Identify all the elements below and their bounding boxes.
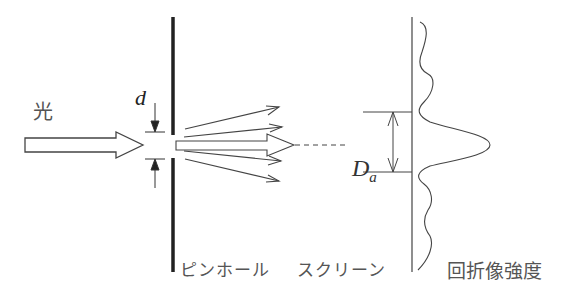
pinhole-label: ピンホール xyxy=(180,256,270,281)
spot-diameter-subscript: a xyxy=(369,169,377,185)
light-label: 光 xyxy=(33,96,53,125)
screen-label: スクリーン xyxy=(297,256,386,281)
diagram-canvas xyxy=(0,0,565,291)
spot-diameter-label: Da xyxy=(352,155,377,186)
aperture-dimension xyxy=(145,103,165,188)
diffraction-intensity-label: 回折像強度 xyxy=(447,256,542,283)
intensity-profile-curve xyxy=(418,22,490,270)
aperture-diameter-label: d xyxy=(135,85,146,111)
diffracted-rays xyxy=(176,106,294,182)
incoming-light-arrow xyxy=(25,132,143,158)
spot-diameter-main: D xyxy=(352,155,369,181)
